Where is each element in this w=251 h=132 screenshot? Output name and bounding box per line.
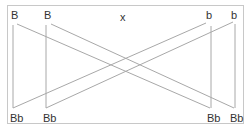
offspring-1: Bb [10,113,23,124]
cross-symbol: x [120,12,126,23]
parent1-allele-2: B [44,10,51,21]
parent2-allele-1: b [206,10,212,21]
parent2-allele-2: b [231,10,237,21]
offspring-3: Bb [207,113,220,124]
parent1-allele-1: B [11,10,18,21]
line-B2-to-Bb4 [51,24,234,108]
offspring-4: Bb [230,113,243,124]
offspring-2: Bb [43,113,56,124]
line-b1-to-Bb1 [13,23,206,108]
